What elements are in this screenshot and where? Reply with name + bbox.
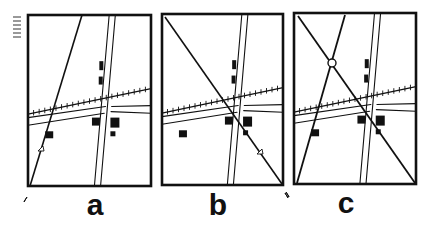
sight-line-a-1 xyxy=(30,15,82,186)
road-vertical-right-edge xyxy=(101,15,116,186)
signature-mark xyxy=(13,16,21,38)
building-north-1 xyxy=(365,59,369,68)
road-horizontal-bottom-edge-right xyxy=(244,111,283,113)
position-fix-circle-icon xyxy=(328,59,336,67)
building-east-small xyxy=(110,131,115,136)
road-horizontal-top-edge-right xyxy=(377,104,416,105)
road-horizontal-bottom-edge-right xyxy=(111,112,151,114)
sight-line-c-1 xyxy=(297,15,345,183)
road-vertical-right-edge xyxy=(233,14,248,185)
building-center xyxy=(357,116,365,124)
panel-label-a: a xyxy=(80,190,110,220)
figure-stage: a b c xyxy=(0,0,431,226)
building-north-2 xyxy=(364,75,368,83)
building-north-2 xyxy=(232,76,236,84)
road-horizontal-bottom-edge-right xyxy=(376,110,416,112)
building-center xyxy=(225,117,233,125)
road-horizontal-top-edge-right xyxy=(244,105,283,106)
panel-label-c: c xyxy=(331,188,361,218)
road-vertical-right-edge xyxy=(366,13,381,184)
sight-line-c-2 xyxy=(298,16,415,183)
building-west xyxy=(179,130,187,137)
building-north-2 xyxy=(99,77,103,85)
building-center xyxy=(92,118,100,126)
direction-triangle-icon xyxy=(38,146,44,151)
north-arrow-icon xyxy=(24,197,27,202)
panel-label-b: b xyxy=(203,190,233,220)
building-east-large xyxy=(243,117,252,127)
building-north-1 xyxy=(232,60,236,69)
road-horizontal-top-edge-right xyxy=(112,106,151,107)
building-east-large xyxy=(110,118,119,128)
building-east-large xyxy=(376,116,385,126)
sight-line-b-1 xyxy=(165,17,282,184)
building-north-1 xyxy=(99,61,103,70)
